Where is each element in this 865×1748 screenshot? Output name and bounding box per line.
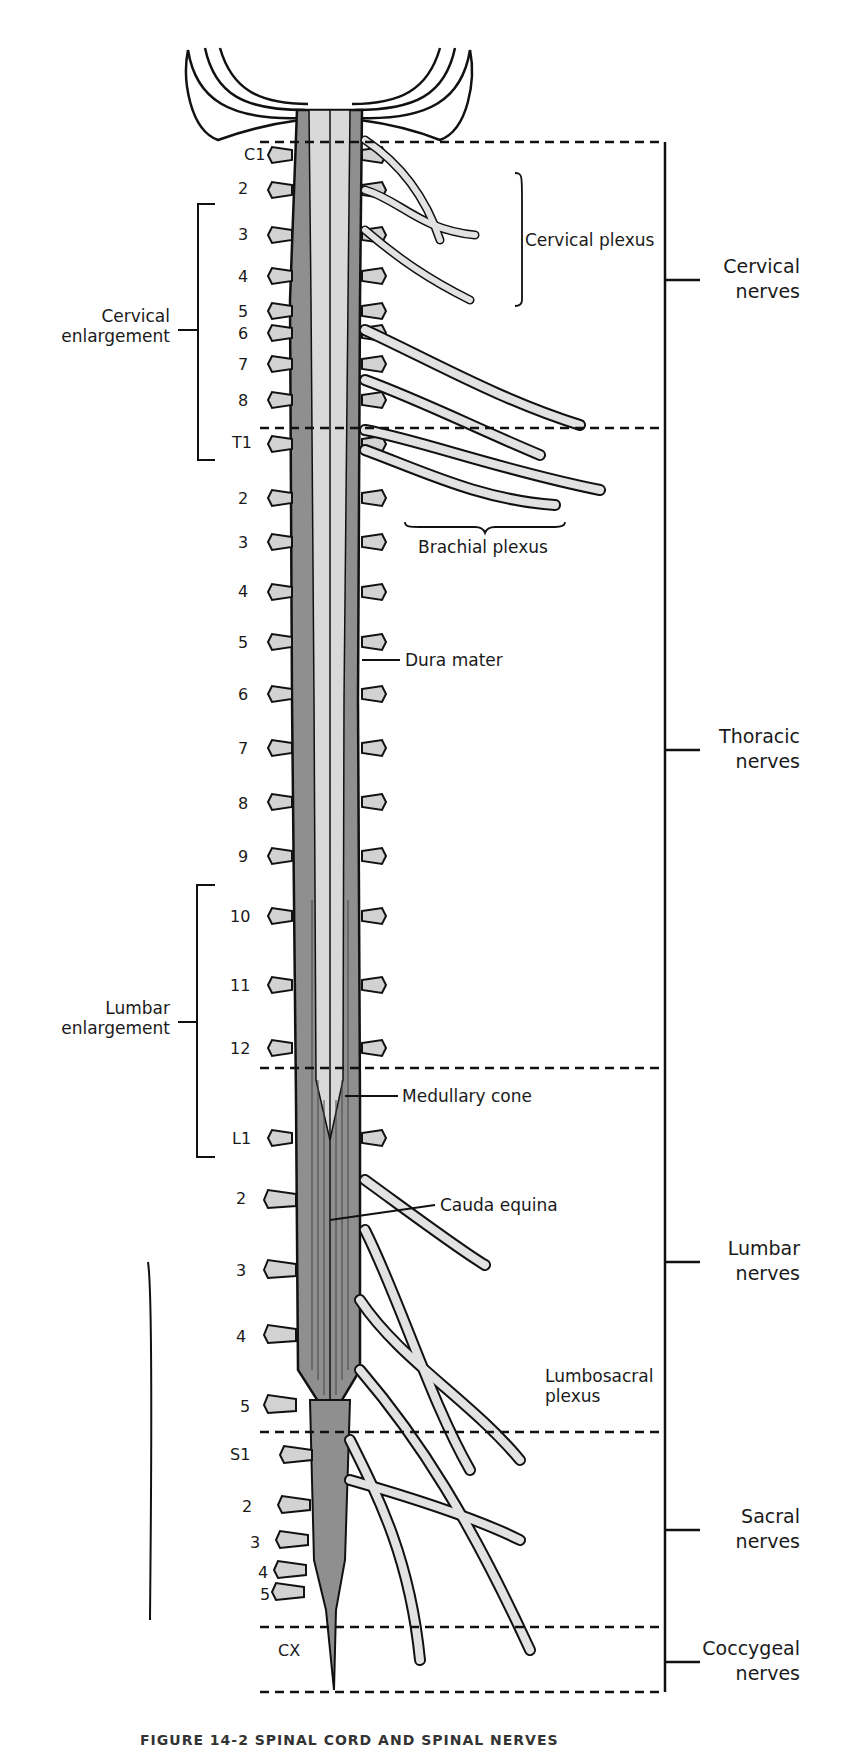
segment-s2: 2: [242, 1498, 252, 1516]
cauda-equina-label: Cauda equina: [440, 1195, 558, 1215]
segment-t10: 10: [230, 908, 250, 926]
segment-l5: 5: [240, 1398, 250, 1416]
segment-c4: 4: [238, 268, 248, 286]
segment-t5: 5: [238, 634, 248, 652]
sacral-nerves-label: Sacralnerves: [690, 1504, 800, 1554]
segment-t4: 4: [238, 583, 248, 601]
right-group-bracket: [665, 142, 700, 1692]
cervical-nerves-label: Cervicalnerves: [690, 254, 800, 304]
segment-c3: 3: [238, 226, 248, 244]
segment-c6: 6: [238, 325, 248, 343]
segment-t6: 6: [238, 686, 248, 704]
segment-t7: 7: [238, 740, 248, 758]
segment-c7: 7: [238, 356, 248, 374]
coccygeal-nerves-label: Coccygealnerves: [690, 1636, 800, 1686]
segment-c8: 8: [238, 392, 248, 410]
brachial-plexus-brace: [405, 522, 565, 533]
segment-t9: 9: [238, 848, 248, 866]
segment-s4: 4: [258, 1564, 268, 1582]
segment-s1: S1: [230, 1446, 250, 1464]
segment-t12: 12: [230, 1040, 250, 1058]
segment-l1: L1: [232, 1130, 251, 1148]
sacral-region: [310, 1400, 350, 1690]
figure-caption: FIGURE 14-2 SPINAL CORD AND SPINAL NERVE…: [140, 1732, 559, 1748]
segment-l2: 2: [236, 1190, 246, 1208]
segment-t1: T1: [232, 434, 252, 452]
segment-l4: 4: [236, 1328, 246, 1346]
thoracic-nerves-label: Thoracicnerves: [690, 724, 800, 774]
cervical-plexus-label: Cervical plexus: [525, 230, 654, 250]
segment-t8: 8: [238, 795, 248, 813]
segment-t2: 2: [238, 490, 248, 508]
cervical-enlargement-label: Cervical enlargement: [40, 306, 170, 346]
medullary-cone-label: Medullary cone: [402, 1086, 532, 1106]
lumbar-nerves-label: Lumbarnerves: [690, 1236, 800, 1286]
segment-c1: C1: [244, 146, 265, 164]
segment-c5: 5: [238, 303, 248, 321]
brachial-plexus-label: Brachial plexus: [418, 537, 548, 557]
lumbosacral-plexus-label: Lumbosacral plexus: [545, 1366, 653, 1406]
segment-t11: 11: [230, 977, 250, 995]
segment-s3: 3: [250, 1534, 260, 1552]
lumbar-enlargement-label: Lumbar enlargement: [40, 998, 170, 1038]
cervical-plexus-brace: [515, 173, 522, 306]
segment-cx: CX: [278, 1642, 300, 1660]
segment-t3: 3: [238, 534, 248, 552]
enlargement-brackets: [148, 204, 215, 1620]
segment-l3: 3: [236, 1262, 246, 1280]
segment-s5: 5: [260, 1586, 270, 1604]
dura-mater-label: Dura mater: [405, 650, 503, 670]
segment-c2: 2: [238, 180, 248, 198]
